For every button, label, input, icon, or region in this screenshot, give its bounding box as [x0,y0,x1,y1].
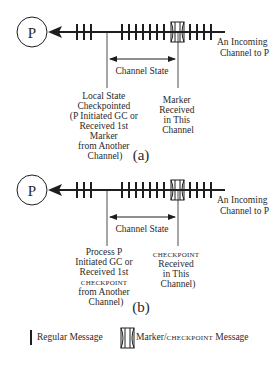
diagram-a: P [17,17,270,164]
checkpoint-diagram: P [0,0,278,365]
caption-b: (b) [132,299,150,316]
local-state-label: Local State Checkpointed (P Initiated GC… [70,91,140,162]
checkpoint-received-label: CHECKPOINT Received in This Channel) [153,243,203,290]
marker-checkpoint-legend-label: Marker/CHECKPOINT Message [136,332,249,342]
channel-state-label: Channel State [115,224,168,234]
process-checkpoint-label: Process P Initiated GC or Received 1st C… [75,241,137,308]
incoming-channel-label: An Incoming Channel to P [217,195,270,216]
marker-message-icon [171,22,184,42]
process-p-label: P [28,25,36,41]
process-p-label: P [28,183,36,199]
marker-received-label: Marker Received in This Channel [159,95,197,135]
legend: Regular Message Marker/CHECKPOINT Messag… [31,328,249,348]
caption-a: (a) [133,147,150,164]
checkpoint-message-icon [171,180,184,200]
channel-state-label: Channel State [115,66,168,76]
marker-checkpoint-legend-icon [121,328,134,348]
regular-message-legend-label: Regular Message [37,332,103,342]
diagram-b: P Ch [17,175,270,316]
incoming-channel-label: An Incoming Channel to P [217,37,270,58]
